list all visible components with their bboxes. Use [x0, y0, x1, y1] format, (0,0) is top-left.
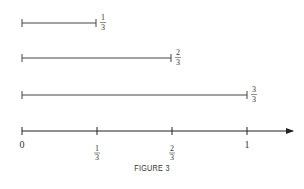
tick-label-two-thirds-num: 2: [170, 144, 174, 153]
figure-caption: FIGURE 3: [23, 163, 281, 173]
segment-1-denominator: 3: [101, 23, 105, 32]
segment-one-third: 1 3: [22, 13, 106, 32]
number-line: 0 1 3 2 3 1: [20, 127, 294, 162]
tick-label-1: 1: [245, 139, 250, 150]
tick-label-one-third-num: 1: [95, 144, 99, 153]
segment-3-numerator: 3: [252, 85, 256, 94]
segment-2-numerator: 2: [176, 48, 180, 57]
tick-label-one-third-den: 3: [95, 153, 99, 162]
segment-three-thirds: 3 3: [22, 85, 257, 104]
segment-3-denominator: 3: [252, 95, 256, 104]
fraction-number-line-diagram: 1 3 2 3 3 3 0 1 3 2 3 1: [0, 0, 304, 189]
segment-2-denominator: 3: [176, 58, 180, 67]
segment-two-thirds: 2 3: [22, 48, 181, 67]
segment-1-numerator: 1: [101, 13, 105, 22]
tick-label-0: 0: [20, 139, 25, 150]
tick-label-two-thirds-den: 3: [170, 153, 174, 162]
